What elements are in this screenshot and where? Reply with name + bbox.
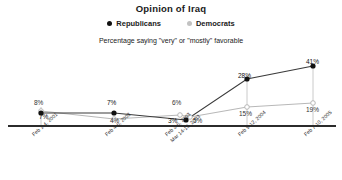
value-label-republicans-2005: 41% (306, 59, 319, 66)
legend-item-republicans: Republicans (107, 19, 161, 28)
value-label-republicans-2004: 28% (238, 73, 251, 80)
legend-label-republicans: Republicans (116, 19, 161, 28)
series-line-republicans (41, 66, 313, 120)
chart-subtitle: Percentage saying "very" or "mostly" fav… (0, 37, 342, 44)
value-label-democrats-2004: 15% (239, 111, 252, 118)
value-label-republicans-2002: 7% (107, 100, 116, 107)
chart-title: Opinion of Iraq (0, 3, 342, 14)
series-markers-republicans (38, 63, 315, 122)
x-axis-labels: Feb 1-4, 2001 Feb 4-6, 2002 Feb 3-6, 200… (0, 128, 342, 180)
value-label-democrats-2003a: 6% (172, 100, 181, 107)
legend-label-democrats: Democrats (196, 19, 235, 28)
filled-circle-icon (107, 21, 112, 26)
value-label-democrats-2005: 19% (306, 107, 319, 114)
legend-item-democrats: Democrats (187, 19, 235, 28)
value-label-democrats-2001: 8% (34, 100, 43, 107)
chart-container: Opinion of Iraq Republicans Democrats Pe… (0, 0, 342, 180)
chart-legend: Republicans Democrats (0, 19, 342, 28)
open-circle-icon (187, 21, 192, 26)
